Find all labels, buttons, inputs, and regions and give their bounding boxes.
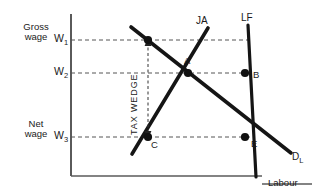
curve-labour-force xyxy=(248,25,256,177)
curve-label-dl-sub: L xyxy=(299,156,303,165)
point-w1-dot xyxy=(144,36,152,44)
curve-labour-demand xyxy=(131,27,291,153)
point-b xyxy=(241,69,249,77)
curve-label-lf-text: LF xyxy=(241,12,253,23)
tick-label-w2-text: W xyxy=(54,65,64,77)
tick-label-w1-sub: 1 xyxy=(64,38,68,47)
point-label-c: C xyxy=(151,140,158,150)
gross-wage-label-line2: wage xyxy=(14,32,58,42)
curve-label-dl: DL xyxy=(292,152,303,165)
tax-wedge-label: TAX WEDGE xyxy=(129,74,139,135)
curve-label-lf: LF xyxy=(241,13,253,26)
curve-job-acceptance xyxy=(132,28,208,154)
gross-wage-label: Gross wage xyxy=(14,22,58,42)
point-label-e: E xyxy=(251,139,257,149)
tick-label-w2-sub: 2 xyxy=(64,71,68,80)
tick-label-w3: W3 xyxy=(54,130,68,144)
point-label-b: B xyxy=(253,70,259,80)
point-a xyxy=(184,69,192,77)
tick-label-w1-text: W xyxy=(54,32,64,44)
tick-label-w3-sub: 3 xyxy=(64,135,68,144)
x-axis-label: Labour xyxy=(268,178,298,188)
net-wage-label: Net wage xyxy=(14,119,58,139)
tick-label-w2: W2 xyxy=(54,66,68,80)
point-label-a: A xyxy=(184,56,190,66)
tick-label-w3-text: W xyxy=(54,129,64,141)
net-wage-label-line2: wage xyxy=(14,129,58,139)
point-e xyxy=(241,133,249,141)
diagram-canvas: Gross wage W1 W2 Net wage W3 TAX WEDGE J… xyxy=(0,0,312,195)
tick-label-w1: W1 xyxy=(54,33,68,47)
curve-label-ja-text: JA xyxy=(196,15,208,26)
curve-label-ja: JA xyxy=(196,16,208,29)
